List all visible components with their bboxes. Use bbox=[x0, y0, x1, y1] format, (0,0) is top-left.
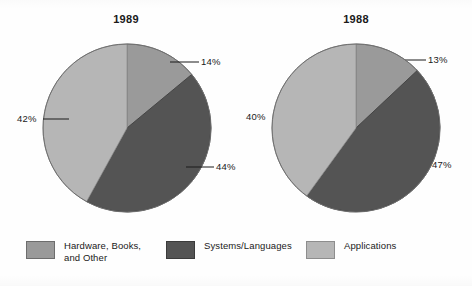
legend-item-systems-languages: Systems/Languages bbox=[166, 240, 292, 259]
pie-label-1989-systems: 44% bbox=[216, 161, 236, 172]
chart-title-1989: 1989 bbox=[86, 13, 166, 25]
pie-label-1988-applications: 40% bbox=[246, 111, 266, 122]
legend-swatch-systems-languages bbox=[166, 241, 195, 259]
chart-legend: Hardware, Books, and Other Systems/Langu… bbox=[0, 236, 472, 280]
pie-chart-1988 bbox=[269, 41, 443, 215]
chart-title-1988: 1988 bbox=[316, 13, 396, 25]
pie-label-1989-hardware: 14% bbox=[201, 56, 221, 67]
legend-swatch-applications bbox=[306, 241, 335, 259]
pie-label-1988-systems: 47% bbox=[432, 159, 452, 170]
pie-chart-1989 bbox=[40, 41, 214, 215]
legend-item-applications: Applications bbox=[306, 240, 396, 259]
pie-chart-figure: 1989 14% 44% 42% 1988 bbox=[0, 0, 472, 286]
pie-label-1988-hardware: 13% bbox=[428, 54, 448, 65]
pie-label-1989-applications: 42% bbox=[17, 113, 37, 124]
legend-label-hardware-books-and-other: Hardware, Books, and Other bbox=[64, 240, 141, 263]
pie-1988-svg bbox=[269, 41, 443, 215]
legend-label-systems-languages: Systems/Languages bbox=[204, 240, 292, 252]
legend-swatch-hardware-books-and-other bbox=[26, 241, 55, 259]
legend-label-applications: Applications bbox=[344, 240, 396, 252]
legend-item-hardware-books-and-other: Hardware, Books, and Other bbox=[26, 240, 141, 263]
pie-1989-svg bbox=[40, 41, 214, 215]
